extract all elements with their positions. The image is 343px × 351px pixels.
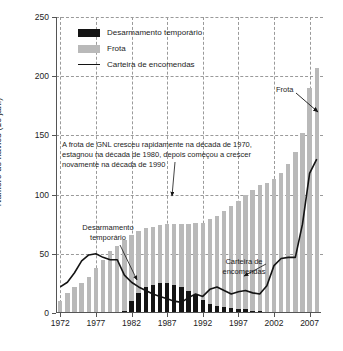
lng-fleet-chart: Número de navios (1o jan.) 0501001502002…	[0, 0, 343, 351]
annotation-arrows	[0, 0, 343, 351]
